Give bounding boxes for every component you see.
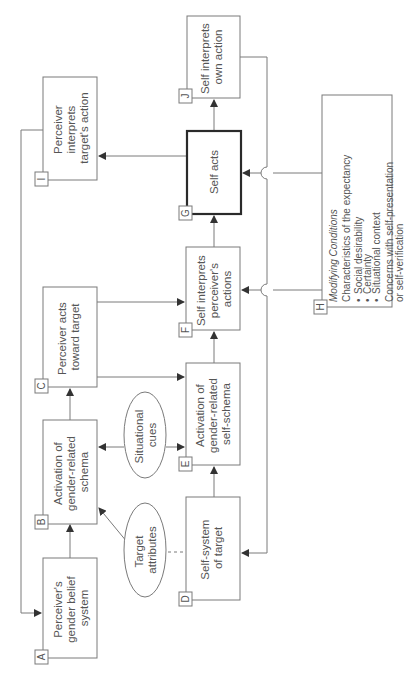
concerns-line-2: or self-verification	[394, 224, 405, 302]
node-c-line-2: toward target	[69, 303, 81, 371]
svg-text:Activation of gender-rel: Activation of gender-related self-schema	[194, 375, 232, 453]
svg-text:Perceiver acts toward ta: Perceiver acts toward target	[56, 299, 81, 375]
edge-j-to-d	[240, 57, 267, 553]
node-e-line-3: self-schema	[220, 382, 232, 445]
svg-text:Self interprets own acti: Self interprets own action	[199, 20, 224, 94]
node-g-letter: G	[180, 209, 191, 217]
node-f-line-3: actions	[221, 271, 233, 308]
node-a-line-1: Perceiver's	[52, 581, 64, 638]
node-h-letter: H	[315, 303, 326, 310]
modifying-conditions-title: Modifying Conditions	[328, 209, 339, 302]
node-d-line-2: of target	[212, 526, 224, 569]
node-j-line-1: Self interprets	[199, 23, 211, 94]
expectancy-diagram: Perceiver's gender belief system A Activ…	[0, 0, 408, 679]
node-i-letter: I	[36, 178, 47, 181]
node-e-line-2: gender-related	[207, 378, 219, 453]
node-f-letter: F	[180, 327, 191, 333]
node-b-line-2: gender-related	[65, 436, 77, 511]
node-d-letter: D	[180, 595, 191, 602]
node-j-letter: J	[180, 94, 191, 99]
node-h-modifying-conditions: Modifying Conditions Characteristics of …	[314, 95, 405, 314]
node-i-line-3: target's action	[78, 92, 90, 163]
bullet-situational-context: Situational context	[371, 212, 382, 294]
node-i: Perceiver interprets target's action I	[35, 77, 97, 186]
edge-i-to-a	[21, 130, 43, 613]
node-j-line-2: own action	[212, 30, 224, 85]
node-i-line-1: Perceiver	[52, 105, 64, 154]
node-b: Activation of gender-related schema B	[35, 420, 97, 529]
target-attributes-line-1: Target	[133, 535, 145, 568]
svg-text:Perceiver interprets: Perceiver interprets target's action	[52, 92, 90, 163]
ellipse-target-attributes: Target attributes	[124, 503, 166, 597]
node-b-letter: B	[36, 518, 47, 525]
node-d-line-1: Self-system	[199, 520, 211, 580]
bullet-dot: •	[371, 298, 382, 302]
node-j: Self interprets own action J	[179, 16, 240, 103]
node-b-line-3: schema	[78, 451, 90, 492]
svg-text:Target attributes: Target attributes	[133, 526, 158, 574]
node-a-line-3: system	[78, 590, 90, 626]
node-a-line-2: gender belief	[65, 576, 77, 643]
node-a-letter: A	[36, 653, 47, 660]
node-e-line-1: Activation of	[194, 383, 206, 446]
expectancy-characteristics: Characteristics of the expectancy	[341, 155, 352, 302]
ellipse-situational-cues: Situational cues	[124, 392, 166, 478]
node-f-line-2: perceiver's	[208, 263, 220, 318]
situational-cues-line-1: Situational	[133, 410, 145, 464]
node-e-letter: E	[180, 460, 191, 467]
node-c-letter: C	[36, 382, 47, 389]
node-g-line-1: Self acts	[208, 150, 220, 194]
node-f-line-1: Self interprets	[195, 255, 207, 326]
node-f: Self interprets perceiver's actions F	[179, 247, 240, 337]
node-i-line-2: interprets	[65, 105, 77, 153]
situational-cues-line-2: cues	[146, 423, 158, 448]
node-c-line-1: Perceiver acts	[56, 302, 68, 375]
target-attributes-line-2: attributes	[146, 526, 158, 574]
node-c: Perceiver acts toward target C	[35, 287, 97, 393]
node-e: Activation of gender-related self-schema…	[179, 363, 240, 471]
node-g: Self acts G	[179, 131, 241, 220]
node-a: Perceiver's gender belief system A	[35, 558, 97, 664]
node-d: Self-system of target D	[179, 497, 240, 606]
node-b-line-1: Activation of	[52, 441, 64, 504]
